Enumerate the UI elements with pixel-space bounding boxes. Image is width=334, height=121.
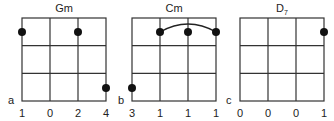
finger-dot	[18, 28, 26, 36]
fret-grid-svg	[240, 18, 324, 101]
chord-diagram-gm: Gm a 1 0 2 4	[0, 0, 112, 121]
string-number: 1	[16, 107, 28, 119]
chord-title: Gm	[22, 2, 106, 16]
chord-title: D7	[240, 2, 324, 16]
chord-diagram-d7: D7 c 0 0 0 1	[218, 0, 330, 121]
diagram-label: a	[8, 94, 14, 106]
string-number: 2	[72, 107, 84, 119]
chord-subscript: 7	[284, 9, 288, 16]
chord-name: D	[276, 2, 284, 14]
fret-grid-svg	[132, 18, 216, 101]
diagram-label: b	[118, 94, 124, 106]
string-number: 1	[182, 107, 194, 119]
string-number: 0	[290, 107, 302, 119]
fretboard-grid	[22, 18, 105, 101]
finger-dot	[320, 28, 328, 36]
finger-dot	[102, 84, 110, 92]
string-number: 0	[234, 107, 246, 119]
finger-dot	[128, 84, 136, 92]
string-number: 1	[154, 107, 166, 119]
string-number: 0	[262, 107, 274, 119]
fretboard-grid	[240, 18, 323, 101]
chord-title: Cm	[132, 2, 216, 16]
string-number: 3	[126, 107, 138, 119]
chord-name: Cm	[165, 2, 182, 14]
finger-dot	[184, 28, 192, 36]
fret-grid-svg	[22, 18, 106, 101]
finger-dot	[156, 28, 164, 36]
chord-diagram-cm: Cm b 3 1 1 1	[110, 0, 222, 121]
diagram-label: c	[226, 94, 232, 106]
fretboard-grid	[132, 18, 215, 101]
finger-dot	[74, 28, 82, 36]
string-number: 1	[318, 107, 330, 119]
string-number: 0	[44, 107, 56, 119]
chord-name: Gm	[55, 2, 73, 14]
